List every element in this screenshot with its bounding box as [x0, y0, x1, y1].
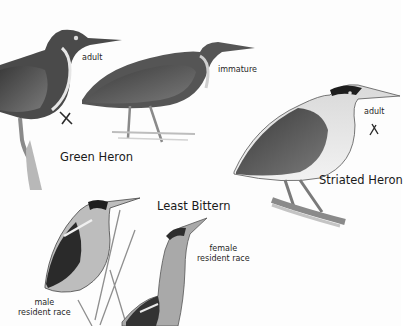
green-heron-adult-figure	[0, 30, 122, 190]
female-label-line2: resident race	[197, 254, 250, 264]
least-bittern-female-figure	[122, 218, 207, 326]
green-heron-immature-label: immature	[218, 65, 257, 75]
least-bittern-title: Least Bittern	[157, 199, 230, 213]
range-mark-icon-green	[60, 112, 72, 124]
female-label-line1: female	[197, 244, 250, 254]
striated-heron-title: Striated Heron	[319, 173, 403, 187]
striated-heron-adult-figure	[234, 85, 400, 226]
green-heron-adult-label: adult	[82, 53, 102, 63]
striated-heron-adult-label: adult	[364, 107, 384, 117]
male-label-line1: male	[18, 298, 71, 308]
green-heron-immature-figure	[82, 42, 255, 142]
least-bittern-male-label: male resident race	[18, 298, 71, 318]
least-bittern-female-label: female resident race	[197, 244, 250, 264]
male-label-line2: resident race	[18, 308, 71, 318]
range-mark-icon-striated	[370, 124, 378, 135]
green-heron-title: Green Heron	[60, 150, 133, 164]
